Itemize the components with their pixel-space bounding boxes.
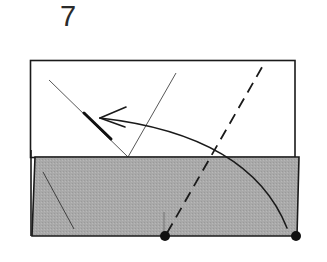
gray-paper-layer — [31, 150, 299, 236]
dot-left — [160, 231, 170, 241]
origami-diagram — [0, 0, 327, 262]
white-paper-layer — [31, 61, 296, 158]
dot-right — [291, 231, 301, 241]
